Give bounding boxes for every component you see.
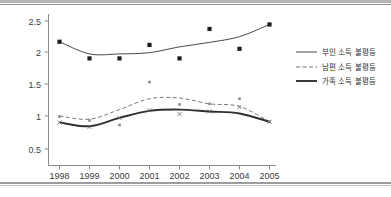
y-tick-label-1.5: 1.5 <box>28 80 41 90</box>
legend: 부인 소득 불평등 남편 소득 불평등 가족 소득 불평등 <box>296 47 376 86</box>
data-point-marker <box>237 47 241 51</box>
x-axis-ticks <box>60 166 270 170</box>
legend-label-wife: 부인 소득 불평등 <box>322 47 376 57</box>
data-point-marker <box>57 40 61 44</box>
data-point-marker <box>117 56 121 60</box>
data-point-marker <box>58 115 61 118</box>
data-point-marker <box>87 56 91 60</box>
data-point-marker <box>207 27 211 31</box>
x-tick-label-2002: 2002 <box>169 171 189 181</box>
y-tick-label-1: 1 <box>36 112 41 122</box>
data-point-marker <box>267 22 271 26</box>
data-point-marker <box>178 112 182 116</box>
page-top-rule-thin <box>0 4 391 5</box>
y-axis: 2.5 2 1.5 1 0.5 <box>28 14 48 166</box>
data-point-marker <box>208 103 211 106</box>
line-chart-figure: 2.5 2 1.5 1 0.5 <box>0 6 391 181</box>
data-point-marker <box>177 56 181 60</box>
x-tick-label-2003: 2003 <box>199 171 219 181</box>
y-tick-label-2: 2 <box>36 48 41 58</box>
y-tick-label-2.5: 2.5 <box>28 17 41 27</box>
x-tick-label-1999: 1999 <box>79 171 99 181</box>
x-tick-label-1998: 1998 <box>49 171 69 181</box>
series-line-family <box>60 110 270 127</box>
x-tick-label-2001: 2001 <box>139 171 159 181</box>
x-tick-label-2004: 2004 <box>229 171 249 181</box>
y-axis-tick-labels: 2.5 2 1.5 1 0.5 <box>28 17 41 155</box>
legend-entry-husband: 남편 소득 불평등 <box>296 62 376 72</box>
page-bottom-rule-thin <box>0 185 391 186</box>
page-bottom-rule-thick <box>0 182 391 184</box>
chart-page: 2.5 2 1.5 1 0.5 <box>0 0 391 197</box>
data-point-marker <box>148 81 151 84</box>
legend-label-husband: 남편 소득 불평등 <box>322 62 376 72</box>
x-axis-tick-labels: 1998 1999 2000 2001 2002 2003 2004 2005 <box>49 171 279 181</box>
y-tick-label-0.5: 0.5 <box>28 145 41 155</box>
chart-svg: 2.5 2 1.5 1 0.5 <box>0 6 391 181</box>
data-point-marker <box>118 124 121 127</box>
page-top-rule-thick <box>0 0 391 3</box>
data-point-marker <box>178 103 181 106</box>
data-point-marker <box>147 43 151 47</box>
x-axis: 1998 1999 2000 2001 2002 2003 2004 2005 <box>49 166 280 182</box>
legend-entry-wife: 부인 소득 불평등 <box>296 47 376 57</box>
data-point-marker <box>238 105 242 109</box>
plot-series-group <box>60 24 270 126</box>
legend-label-family: 가족 소득 불평등 <box>322 76 376 86</box>
x-tick-label-2005: 2005 <box>259 171 279 181</box>
data-point-marker <box>238 97 241 100</box>
x-tick-label-2000: 2000 <box>109 171 129 181</box>
legend-entry-family: 가족 소득 불평등 <box>296 76 376 86</box>
data-point-marker <box>88 119 91 122</box>
y-axis-ticks <box>45 21 49 149</box>
